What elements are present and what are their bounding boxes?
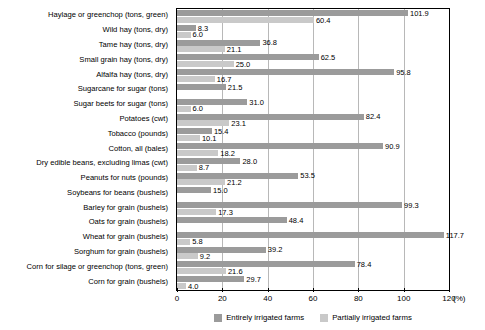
bar-group: 15.0: [177, 186, 449, 201]
category-label: Alfalfa hay (tons, dry): [96, 71, 168, 79]
tick-mark: [268, 288, 269, 292]
category-label: Small grain hay (tons, dry): [79, 56, 168, 64]
tick-label: 0: [175, 294, 179, 303]
bar-partially-irrigated: [177, 268, 226, 274]
bar-value-label: 99.3: [404, 202, 419, 210]
legend-swatch-icon: [214, 314, 222, 322]
bar-entirely-irrigated: [177, 187, 211, 193]
category-label: Oats for grain (bushels): [89, 218, 168, 226]
category-label: Haylage or greenchop (tons, green): [48, 11, 168, 19]
category-label: Sorghum for grain (bushels): [74, 248, 168, 256]
tick-label: 80: [354, 294, 363, 303]
plot-area: 101.960.48.36.036.821.162.525.095.816.72…: [176, 8, 450, 291]
bar-partially-irrigated: [177, 135, 200, 141]
bar-partially-irrigated: [177, 239, 190, 245]
bar-entirely-irrigated: [177, 232, 444, 238]
legend-label: Partially irrigated farms: [332, 314, 412, 322]
bar-partially-irrigated: [177, 32, 191, 38]
category-label: Sugarcane for sugar (tons): [78, 85, 168, 93]
bar-value-label: 31.0: [249, 99, 264, 107]
tick-mark: [313, 288, 314, 292]
bar-group: 90.918.2: [177, 142, 449, 157]
bar-group: 39.29.2: [177, 246, 449, 261]
category-label: Wild hay (tons, dry): [103, 26, 168, 34]
bar-value-label: 29.7: [246, 276, 261, 284]
legend-label: Entirely irrigated farms: [226, 314, 304, 322]
bar-group: 62.525.0: [177, 53, 449, 68]
legend-item-partially-irrigated: Partially irrigated farms: [320, 314, 412, 322]
bar-entirely-irrigated: [177, 261, 355, 267]
bar-partially-irrigated: [177, 17, 314, 23]
bar-group: 28.08.7: [177, 157, 449, 172]
bar-value-label: 62.5: [321, 54, 336, 62]
bar-value-label: 21.5: [228, 84, 243, 92]
tick-label: 40: [263, 294, 272, 303]
bar-value-label: 78.4: [357, 261, 372, 269]
bar-value-label: 95.8: [396, 69, 411, 77]
value-axis-unit: (%): [453, 294, 465, 303]
bar-entirely-irrigated: [177, 69, 394, 75]
category-label: Barley for grain (bushels): [83, 204, 168, 212]
bar-entirely-irrigated: [177, 202, 402, 208]
bar-group: 117.75.8: [177, 231, 449, 246]
bar-group: 95.816.7: [177, 68, 449, 83]
category-label: Corn for silage or greenchop (tons, gree…: [27, 263, 168, 271]
legend-swatch-icon: [320, 314, 328, 322]
bar-value-label: 101.9: [410, 10, 429, 18]
category-label: Soybeans for beans (bushels): [67, 189, 168, 197]
category-label: Peanuts for nuts (pounds): [81, 174, 168, 182]
tick-mark: [358, 288, 359, 292]
tick-mark: [177, 288, 178, 292]
tick-mark: [449, 288, 450, 292]
bar-value-label: 48.4: [289, 217, 304, 225]
category-label: Wheat for grain (bushels): [83, 233, 168, 241]
bar-value-label: 117.7: [446, 232, 464, 240]
bar-value-label: 15.0: [213, 187, 228, 195]
bar-entirely-irrigated: [177, 84, 226, 90]
category-label: Cotton, all (bales): [108, 145, 168, 153]
bar-partially-irrigated: [177, 179, 225, 185]
irrigated-farms-bar-chart: Haylage or greenchop (tons, green)Wild h…: [0, 0, 485, 330]
bar-value-label: 90.9: [385, 143, 400, 151]
bar-partially-irrigated: [177, 61, 234, 67]
bar-value-label: 39.2: [268, 246, 283, 254]
category-label: Corn for grain (bushels): [88, 278, 168, 286]
bar-entirely-irrigated: [177, 247, 266, 253]
bar-entirely-irrigated: [177, 143, 383, 149]
bar-group: 8.36.0: [177, 24, 449, 39]
bar-group: 82.423.1: [177, 113, 449, 128]
bar-partially-irrigated: [177, 283, 186, 289]
legend-item-entirely-irrigated: Entirely irrigated farms: [214, 314, 304, 322]
bar-group: 78.421.6: [177, 260, 449, 275]
category-label: Potatoes (cwt): [119, 115, 168, 123]
bar-entirely-irrigated: [177, 10, 408, 16]
tick-label: 20: [218, 294, 227, 303]
bar-entirely-irrigated: [177, 217, 287, 223]
category-label: Sugar beets for sugar (tons): [73, 100, 168, 108]
category-axis-labels: Haylage or greenchop (tons, green)Wild h…: [0, 8, 172, 291]
bar-partially-irrigated: [177, 106, 191, 112]
category-label: Tame hay (tons, dry): [99, 41, 168, 49]
bar-value-label: 82.4: [366, 113, 381, 121]
tick-mark: [222, 288, 223, 292]
bar-partially-irrigated: [177, 165, 197, 171]
tick-label: 100: [397, 294, 410, 303]
bar-group: 15.410.1: [177, 127, 449, 142]
value-axis-ticks: 020406080100120: [176, 292, 450, 306]
category-label: Dry edible beans, excluding limas (cwt): [36, 159, 168, 167]
bar-entirely-irrigated: [177, 114, 364, 120]
chart-legend: Entirely irrigated farms Partially irrig…: [176, 311, 450, 325]
bar-partially-irrigated: [177, 76, 215, 82]
bar-group: 101.960.4: [177, 9, 449, 24]
bar-partially-irrigated: [177, 209, 216, 215]
bar-value-label: 4.0: [188, 283, 198, 291]
bar-value-label: 36.8: [262, 39, 277, 47]
category-label: Tobacco (pounds): [108, 130, 168, 138]
bar-group: 31.06.0: [177, 98, 449, 113]
bar-partially-irrigated: [177, 253, 198, 259]
bar-entirely-irrigated: [177, 40, 260, 46]
bar-partially-irrigated: [177, 46, 225, 52]
bar-entirely-irrigated: [177, 99, 247, 105]
bar-value-label: 53.5: [300, 172, 315, 180]
bar-groups: 101.960.48.36.036.821.162.525.095.816.72…: [177, 9, 449, 290]
